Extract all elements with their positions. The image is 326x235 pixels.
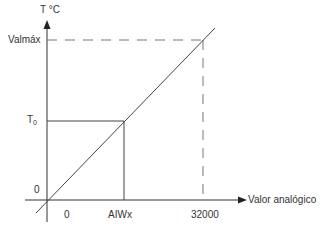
x-axis-arrow-icon xyxy=(238,197,247,204)
x-axis-label: Valor analógico xyxy=(248,195,316,205)
t0-subscript: 0 xyxy=(33,119,37,126)
y-tick-zero: 0 xyxy=(34,185,40,195)
x-tick-max: 32000 xyxy=(191,210,219,220)
y-axis-label: T °C xyxy=(40,5,60,15)
y-axis-arrow-icon xyxy=(44,20,51,29)
x-tick-zero: 0 xyxy=(64,210,70,220)
y-tick-t0: T0 xyxy=(27,115,37,126)
x-tick-aiwx: AIWx xyxy=(108,210,132,220)
y-tick-valmax: Valmáx xyxy=(8,35,41,45)
